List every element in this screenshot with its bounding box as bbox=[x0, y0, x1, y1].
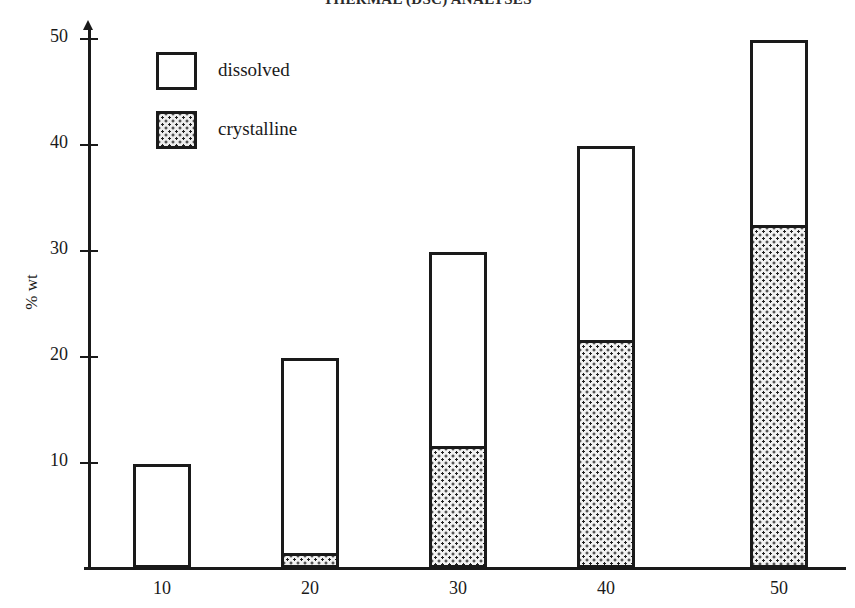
chart-title: THERMAL (DSC) ANALYSES bbox=[0, 0, 855, 8]
bar-segment-dissolved bbox=[281, 358, 339, 556]
bar-50[interactable] bbox=[750, 40, 808, 568]
x-axis-tick-label: 50 bbox=[739, 578, 819, 599]
y-axis-tick-label: 40 bbox=[22, 132, 68, 153]
bar-30[interactable] bbox=[429, 252, 487, 568]
legend-swatch-crystalline-icon bbox=[156, 111, 197, 149]
bar-40[interactable] bbox=[577, 146, 635, 568]
y-axis-tick bbox=[80, 38, 98, 40]
y-axis-tick bbox=[80, 462, 98, 464]
bar-segment-crystalline bbox=[750, 225, 808, 568]
bar-segment-dissolved bbox=[750, 40, 808, 227]
y-axis-tick bbox=[80, 144, 98, 146]
y-axis-tick-label: 10 bbox=[22, 450, 68, 471]
bar-segment-dissolved bbox=[133, 464, 191, 568]
chart-canvas: THERMAL (DSC) ANALYSES % wt 10 20 30 40 … bbox=[0, 0, 855, 608]
y-axis-tick-label: 20 bbox=[22, 344, 68, 365]
bar-segment-crystalline bbox=[577, 340, 635, 568]
y-axis-tick-label: 30 bbox=[22, 238, 68, 259]
y-axis-title: % wt bbox=[22, 252, 42, 332]
bar-segment-dissolved bbox=[577, 146, 635, 343]
legend-swatch-dissolved-icon bbox=[156, 52, 197, 90]
y-axis-tick bbox=[80, 250, 98, 252]
legend-label-dissolved: dissolved bbox=[218, 59, 290, 81]
bar-20[interactable] bbox=[281, 358, 339, 568]
x-axis-tick-label: 20 bbox=[270, 578, 350, 599]
y-axis-line bbox=[88, 26, 91, 569]
x-axis-tick-label: 10 bbox=[122, 578, 202, 599]
bar-segment-crystalline bbox=[429, 446, 487, 568]
y-axis-tick bbox=[80, 356, 98, 358]
bar-segment-crystalline bbox=[281, 553, 339, 568]
x-axis-tick-label: 30 bbox=[418, 578, 498, 599]
bar-segment-dissolved bbox=[429, 252, 487, 449]
x-axis-tick-label: 40 bbox=[566, 578, 646, 599]
legend-label-crystalline: crystalline bbox=[218, 118, 297, 140]
bar-10[interactable] bbox=[133, 464, 191, 568]
y-axis-tick-label: 50 bbox=[22, 26, 68, 47]
